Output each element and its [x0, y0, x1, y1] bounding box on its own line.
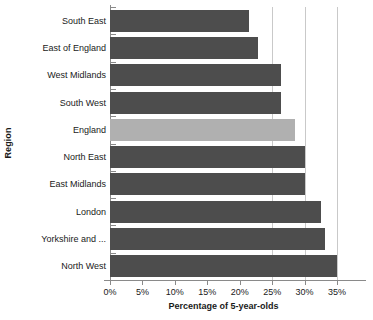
bar[interactable]	[110, 37, 258, 59]
y-axis-tick-label: South East	[10, 16, 106, 26]
bar-row	[110, 37, 337, 59]
y-axis-tick-label: South West	[10, 98, 106, 108]
bar-chart: Region South EastEast of EnglandWest Mid…	[0, 0, 373, 320]
x-axis-tick	[175, 280, 176, 285]
bar-row	[110, 92, 337, 114]
bar-row	[110, 201, 337, 223]
y-axis-tick-label: England	[10, 125, 106, 135]
y-axis-tick-label: Yorkshire and ...	[10, 234, 106, 244]
x-axis-tick	[272, 280, 273, 285]
bar-row	[110, 173, 337, 195]
bar-row	[110, 64, 337, 86]
bar-row	[110, 255, 337, 277]
x-axis-tick	[240, 280, 241, 285]
bar[interactable]	[110, 119, 295, 141]
plot-area	[110, 7, 337, 280]
y-axis-tick-label: East Midlands	[10, 179, 106, 189]
bar[interactable]	[110, 228, 325, 250]
x-axis-tick	[207, 280, 208, 285]
bar[interactable]	[110, 92, 281, 114]
bar[interactable]	[110, 173, 305, 195]
bar[interactable]	[110, 64, 281, 86]
bar-row	[110, 10, 337, 32]
bar-row	[110, 146, 337, 168]
bar-row	[110, 119, 337, 141]
x-axis-tick-label: 35%	[317, 287, 357, 297]
y-axis-tick-label: North West	[10, 261, 106, 271]
y-axis-tick-label: London	[10, 207, 106, 217]
y-axis-tick-labels: South EastEast of EnglandWest MidlandsSo…	[6, 7, 106, 280]
x-axis-title: Percentage of 5-year-olds	[110, 301, 337, 311]
bar[interactable]	[110, 146, 305, 168]
x-axis-tick	[110, 280, 111, 285]
bar-row	[110, 228, 337, 250]
y-axis-tick-label: North East	[10, 152, 106, 162]
y-axis-tick-label: East of England	[10, 43, 106, 53]
bar[interactable]	[110, 255, 337, 277]
x-axis-tick	[142, 280, 143, 285]
bar[interactable]	[110, 10, 249, 32]
y-axis-tick-label: West Midlands	[10, 70, 106, 80]
bar[interactable]	[110, 201, 321, 223]
gridline	[337, 7, 338, 280]
x-axis-tick	[305, 280, 306, 285]
x-axis-tick	[337, 280, 338, 285]
